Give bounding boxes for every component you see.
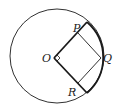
label-Q: Q (103, 52, 112, 65)
right-angle-marker (57, 55, 60, 61)
radius-upper (54, 22, 87, 58)
label-O: O (42, 52, 51, 65)
circle-diagram: O P Q R (0, 0, 119, 112)
label-R: R (67, 86, 76, 99)
segment-PQ (78, 33, 101, 58)
label-P: P (72, 22, 81, 35)
